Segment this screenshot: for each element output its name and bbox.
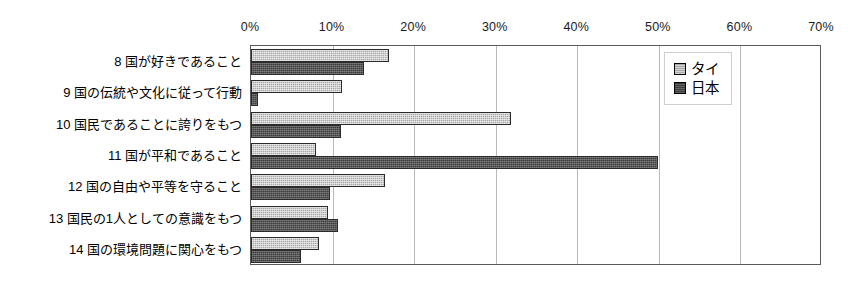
bar-japan [251,250,301,263]
bar-japan [251,156,658,169]
bar-thai [251,112,511,125]
x-tick-label: 20% [400,20,426,34]
x-tick-label: 50% [645,20,671,34]
category-label: 12 国の自由や平等を守ること [0,179,242,194]
legend-swatch-icon [674,82,686,94]
category-label: 14 国の環境問題に関心をもつ [0,242,242,257]
bar-thai [251,206,328,219]
legend-swatch-icon [674,63,686,75]
bar-chart: 0%10%20%30%40%50%60%70% 8 国が好きであること9 国の伝… [0,0,848,293]
legend-item[interactable]: タイ [674,59,719,78]
category-axis-labels: 8 国が好きであること9 国の伝統や文化に従って行動10 国民であることに誇りを… [0,45,246,265]
gridline [414,46,415,264]
bar-japan [251,62,364,75]
bar-japan [251,187,330,200]
legend-label: タイ [691,61,719,77]
category-label: 9 国の伝統や文化に従って行動 [0,85,242,100]
gridline [496,46,497,264]
bar-japan [251,219,338,232]
x-tick-label: 40% [563,20,589,34]
x-tick-label: 0% [241,20,259,34]
plot-area [250,45,821,265]
category-label: 10 国民であることに誇りをもつ [0,116,242,131]
category-label: 8 国が好きであること [0,53,242,68]
bar-thai [251,174,385,187]
category-label: 13 国民の1人としての意識をもつ [0,210,242,225]
bar-japan [251,93,258,106]
bar-thai [251,80,342,93]
gridline [659,46,660,264]
bar-thai [251,237,319,250]
x-tick-label: 30% [482,20,508,34]
bar-japan [251,125,341,138]
x-tick-label: 60% [727,20,753,34]
x-tick-label: 70% [808,20,834,34]
gridline [577,46,578,264]
bar-thai [251,143,316,156]
x-axis-tick-labels: 0%10%20%30%40%50%60%70% [0,20,848,38]
chart-legend: タイ日本 [664,52,732,105]
x-tick-label: 10% [319,20,345,34]
gridline [740,46,741,264]
category-label: 11 国が平和であること [0,148,242,163]
legend-item[interactable]: 日本 [674,78,719,97]
bar-thai [251,49,389,62]
legend-label: 日本 [691,80,719,96]
